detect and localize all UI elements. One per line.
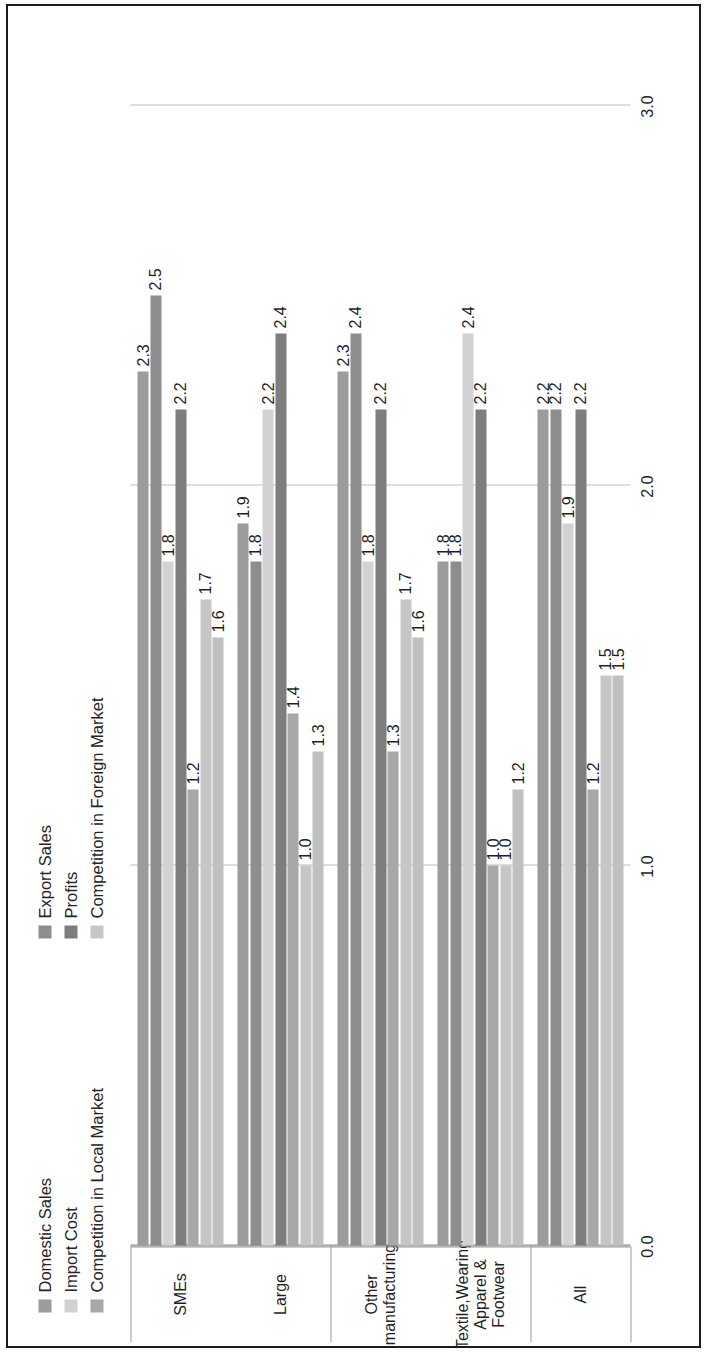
bar[interactable]: [487, 865, 498, 1245]
bar-row: 1.0: [500, 105, 511, 1245]
category-label-cell: Large: [230, 1246, 330, 1342]
bar[interactable]: [150, 295, 161, 1245]
bar[interactable]: [375, 409, 386, 1245]
value-axis-ticks: 0.01.02.03.0: [636, 106, 662, 1246]
category-label-cell: Other manufacturing: [330, 1246, 430, 1342]
bar-row: 1.3: [312, 105, 323, 1245]
value-tick-label: 0.0: [638, 1235, 656, 1257]
bar-value-label: 1.0: [297, 838, 313, 860]
bar-value-label: 2.5: [147, 268, 163, 290]
bar-value-label: 1.6: [210, 610, 226, 632]
bar[interactable]: [412, 637, 423, 1245]
category-axis: SMEsLargeOther manufacturingTextile,Wear…: [130, 1246, 630, 1342]
legend-label: Export Sales: [36, 824, 53, 918]
bar[interactable]: [287, 713, 298, 1245]
bar[interactable]: [450, 561, 461, 1245]
bar-row: 1.8: [250, 105, 261, 1245]
bar-chart: Domestic Sales Import Cost Competition i…: [12, 10, 695, 1342]
bar-row: 2.2: [175, 105, 186, 1245]
bar[interactable]: [312, 751, 323, 1245]
bar-row: 1.8: [162, 105, 173, 1245]
bar-value-label: 1.7: [197, 572, 213, 594]
bar-row: 2.2: [475, 105, 486, 1245]
category-label-cell: SMEs: [130, 1246, 230, 1342]
bar[interactable]: [262, 409, 273, 1245]
bar-row: 1.8: [437, 105, 448, 1245]
value-tick-label: 2.0: [638, 475, 656, 497]
bar[interactable]: [137, 371, 148, 1245]
bar[interactable]: [512, 789, 523, 1245]
bar[interactable]: [162, 561, 173, 1245]
bar[interactable]: [400, 599, 411, 1245]
bar-group: 2.32.41.82.21.31.71.6: [330, 106, 430, 1245]
bar[interactable]: [575, 409, 586, 1245]
bar-row: 1.9: [562, 105, 573, 1245]
bar[interactable]: [362, 561, 373, 1245]
bar[interactable]: [350, 333, 361, 1245]
bar[interactable]: [237, 523, 248, 1245]
bar[interactable]: [175, 409, 186, 1245]
bar-row: 2.2: [575, 105, 586, 1245]
legend-item-competition-local-market[interactable]: Competition in Local Market: [86, 1087, 106, 1312]
bar-row: 1.2: [512, 105, 523, 1245]
bar[interactable]: [475, 409, 486, 1245]
bar-value-label: 1.5: [610, 648, 626, 670]
bar-row: 2.3: [337, 105, 348, 1245]
bar[interactable]: [550, 409, 561, 1245]
category-label: All: [571, 1285, 589, 1303]
bar-value-label: 2.2: [172, 382, 188, 404]
bar[interactable]: [275, 333, 286, 1245]
legend-label: Profits: [62, 871, 79, 918]
legend-label: Competition in Foreign Market: [88, 697, 105, 918]
bar-row: 1.5: [600, 105, 611, 1245]
bar-group: 1.91.82.22.41.41.01.3: [230, 106, 330, 1245]
bar-row: 2.2: [375, 105, 386, 1245]
bar-row: 2.2: [550, 105, 561, 1245]
bar[interactable]: [387, 751, 398, 1245]
bar[interactable]: [200, 599, 211, 1245]
bar-value-label: 1.2: [185, 762, 201, 784]
bar-value-label: 1.4: [285, 686, 301, 708]
bar-row: 2.2: [537, 105, 548, 1245]
bar-row: 1.5: [612, 105, 623, 1245]
bar-value-label: 1.9: [235, 496, 251, 518]
bar-row: 1.7: [400, 105, 411, 1245]
bar-value-label: 2.2: [372, 382, 388, 404]
bar-row: 2.2: [262, 105, 273, 1245]
legend-item-import-cost[interactable]: Import Cost: [60, 1087, 80, 1312]
legend-label: Import Cost: [62, 1207, 79, 1292]
bar[interactable]: [562, 523, 573, 1245]
legend-swatch-icon: [38, 925, 51, 938]
bar[interactable]: [587, 789, 598, 1245]
legend-column-right: Export Sales Profits Competition in Fore…: [34, 697, 106, 938]
scanned-page-frame: Domestic Sales Import Cost Competition i…: [6, 4, 701, 1348]
bar-row: 1.8: [450, 105, 461, 1245]
bar-row: 1.2: [187, 105, 198, 1245]
bar[interactable]: [537, 409, 548, 1245]
bar-row: 1.0: [487, 105, 498, 1245]
category-label-cell: Textile,WearingApparel & Footwear: [430, 1246, 530, 1342]
bar[interactable]: [462, 333, 473, 1245]
bar[interactable]: [612, 675, 623, 1245]
legend-item-export-sales[interactable]: Export Sales: [34, 697, 54, 938]
bar[interactable]: [600, 675, 611, 1245]
group-label-cell: Size: [130, 1342, 330, 1348]
bar[interactable]: [187, 789, 198, 1245]
bar-value-label: 1.0: [497, 838, 513, 860]
legend-swatch-icon: [64, 925, 77, 938]
legend-item-competition-foreign-market[interactable]: Competition in Foreign Market: [86, 697, 106, 938]
bar-value-label: 1.8: [160, 534, 176, 556]
legend-swatch-icon: [90, 1299, 103, 1312]
bar-group: 2.22.21.92.21.21.51.5: [530, 106, 630, 1245]
bar[interactable]: [300, 865, 311, 1245]
bar[interactable]: [212, 637, 223, 1245]
bar[interactable]: [437, 561, 448, 1245]
bar[interactable]: [250, 561, 261, 1245]
bar[interactable]: [337, 371, 348, 1245]
bar-row: 1.6: [412, 105, 423, 1245]
legend-swatch-icon: [90, 925, 103, 938]
legend-item-domestic-sales[interactable]: Domestic Sales: [34, 1087, 54, 1312]
plot-inner: 2.32.51.82.21.21.71.61.91.82.22.41.41.01…: [130, 106, 630, 1246]
bar[interactable]: [500, 865, 511, 1245]
legend-item-profits[interactable]: Profits: [60, 697, 80, 938]
